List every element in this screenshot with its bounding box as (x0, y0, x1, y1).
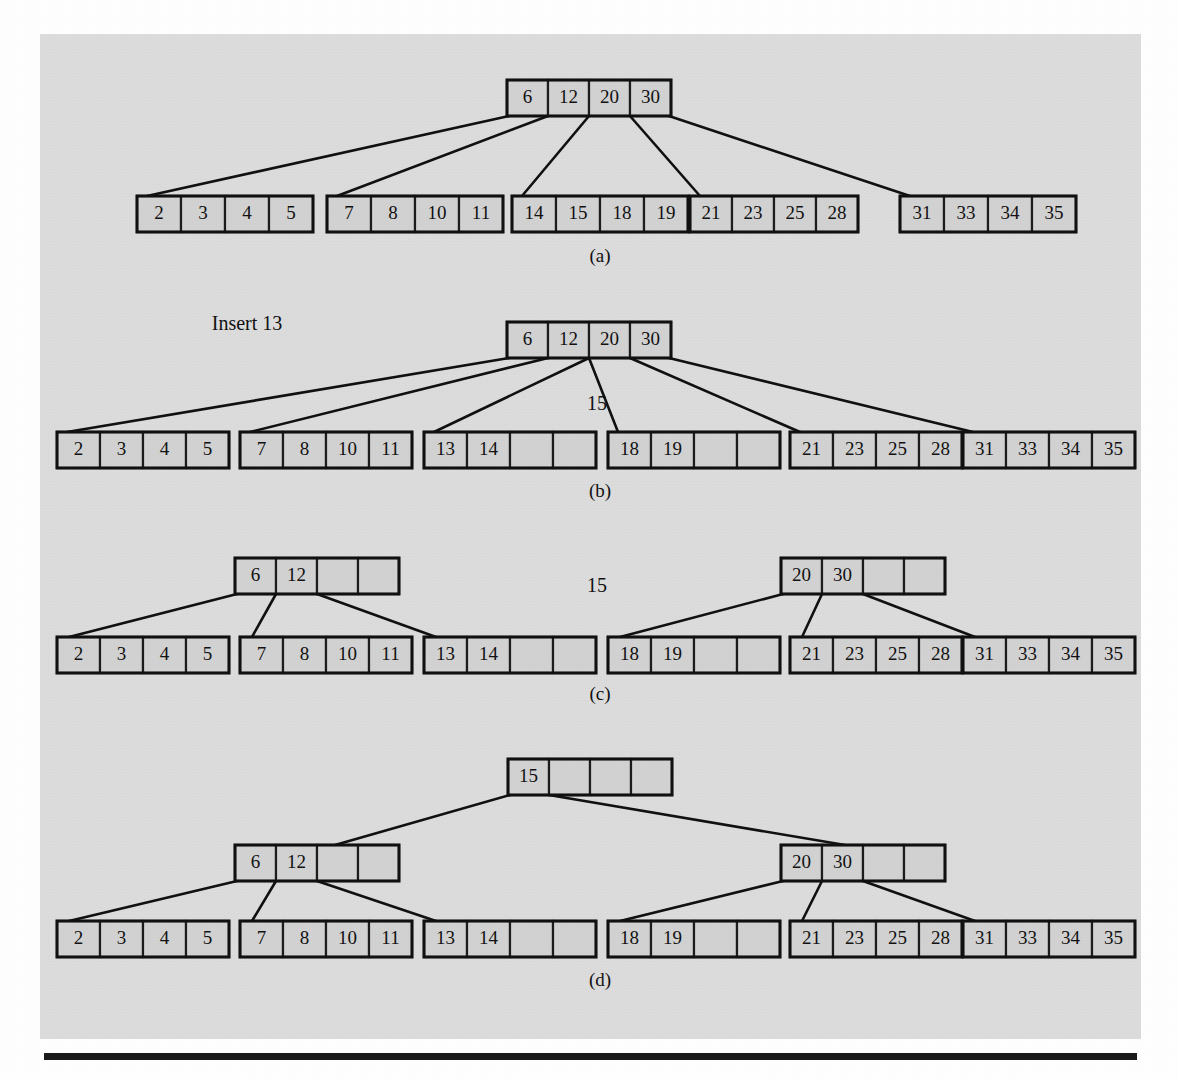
panel-d-leaf-node: 21232528 (790, 921, 962, 957)
node-cell-value: 15 (569, 202, 588, 223)
node-cell-value: 34 (1061, 643, 1081, 664)
tree-edge (863, 594, 975, 637)
node-cell-value: 4 (242, 202, 252, 223)
panel-b-root-node: 6122030 (507, 322, 671, 358)
node-cell (317, 558, 358, 594)
btree-diagram: 6122030234578101114151819212325283133343… (0, 0, 1178, 1079)
node-cell-value: 19 (663, 643, 682, 664)
node-cell-value: 30 (641, 86, 660, 107)
tree-edge (335, 795, 510, 845)
node-cell-value: 21 (802, 438, 821, 459)
node-cell-value: 2 (154, 202, 164, 223)
node-cell-value: 31 (913, 202, 932, 223)
tree-edge (434, 358, 589, 432)
node-cell (553, 432, 596, 468)
node-cell (549, 759, 590, 795)
tree-edge (252, 881, 276, 921)
tree-edge (147, 116, 509, 196)
node-cell-value: 33 (957, 202, 976, 223)
node-cell-value: 25 (888, 927, 907, 948)
node-cell-value: 20 (792, 564, 811, 585)
tree-edge (69, 594, 237, 637)
tree-edge (69, 881, 237, 921)
tree-edge (802, 881, 822, 921)
panel-d-internal-node-right: 2030 (781, 845, 945, 881)
panel-d-root-node: 15 (508, 759, 672, 795)
node-cell-value: 25 (888, 438, 907, 459)
node-cell (590, 759, 631, 795)
node-cell (737, 432, 780, 468)
panel-c-internal-node-left: 612 (235, 558, 399, 594)
node-cell-value: 5 (203, 438, 213, 459)
node-cell-value: 10 (338, 643, 357, 664)
tree-edge (67, 358, 509, 432)
node-cell-value: 23 (845, 643, 864, 664)
node-cell-value: 11 (381, 927, 399, 948)
node-cell-value: 18 (620, 438, 639, 459)
bottom-horizontal-rule (44, 1053, 1137, 1060)
node-cell-value: 23 (744, 202, 763, 223)
node-cell-value: 3 (117, 643, 127, 664)
node-cell-value: 3 (117, 438, 127, 459)
node-cell-value: 8 (300, 438, 310, 459)
node-cell (863, 845, 904, 881)
node-cell-value: 10 (428, 202, 447, 223)
panel-a-root-node: 6122030 (507, 80, 671, 116)
node-cell (904, 845, 945, 881)
node-cell-value: 2 (74, 438, 84, 459)
node-cell-value: 12 (559, 86, 578, 107)
node-cell-value: 5 (203, 643, 213, 664)
node-cell-value: 14 (479, 643, 499, 664)
promoted-key-label-b: 15 (587, 392, 607, 414)
node-cell (358, 845, 399, 881)
node-cell (737, 637, 780, 673)
node-cell-value: 23 (845, 438, 864, 459)
node-cell-value: 35 (1104, 438, 1123, 459)
panel-d-leaf-node: 1819 (608, 921, 780, 957)
node-cell-value: 31 (975, 927, 994, 948)
tree-edge (522, 116, 589, 196)
node-cell-value: 13 (436, 643, 455, 664)
node-cell (317, 845, 358, 881)
node-cell-value: 13 (436, 438, 455, 459)
node-cell-value: 12 (559, 328, 578, 349)
node-cell-value: 34 (1061, 927, 1081, 948)
node-cell (553, 921, 596, 957)
node-cell-value: 31 (975, 643, 994, 664)
node-cell-value: 30 (833, 851, 852, 872)
panel-a-leaf-node: 31333435 (900, 196, 1076, 232)
node-cell (694, 432, 737, 468)
node-cell-value: 28 (931, 643, 950, 664)
panel-b-leaf-node: 2345 (57, 432, 229, 468)
panel-d-internal-node-left: 612 (235, 845, 399, 881)
panel-c-leaf-node: 21232528 (790, 637, 962, 673)
node-cell-value: 3 (117, 927, 127, 948)
node-cell-value: 20 (600, 86, 619, 107)
tree-edge (802, 594, 822, 637)
node-cell-value: 10 (338, 927, 357, 948)
tree-edge (317, 594, 436, 637)
node-cell (694, 921, 737, 957)
node-cell-value: 21 (802, 643, 821, 664)
node-cell-value: 4 (160, 927, 170, 948)
node-cell-value: 5 (203, 927, 213, 948)
panel-c-leaf-node: 2345 (57, 637, 229, 673)
node-cell-value: 18 (613, 202, 632, 223)
node-cell-value: 28 (931, 438, 950, 459)
tree-edge (549, 795, 845, 845)
panel-d-leaf-node: 31333435 (963, 921, 1135, 957)
node-cell-value: 25 (786, 202, 805, 223)
figure-page: 6122030234578101114151819212325283133343… (0, 0, 1178, 1079)
node-cell-value: 8 (300, 643, 310, 664)
insert-operation-label: Insert 13 (212, 312, 283, 334)
tree-edge (630, 116, 700, 196)
tree-edge (620, 881, 783, 921)
node-cell (737, 921, 780, 957)
node-cell-value: 35 (1045, 202, 1064, 223)
panel-a-leaf-node: 14151819 (512, 196, 688, 232)
panel-a-leaf-node: 21232528 (690, 196, 858, 232)
panel-b-leaf-node: 31333435 (963, 432, 1135, 468)
node-cell-value: 3 (198, 202, 208, 223)
node-cell-value: 7 (257, 643, 267, 664)
panel-d-caption: (d) (589, 969, 611, 991)
